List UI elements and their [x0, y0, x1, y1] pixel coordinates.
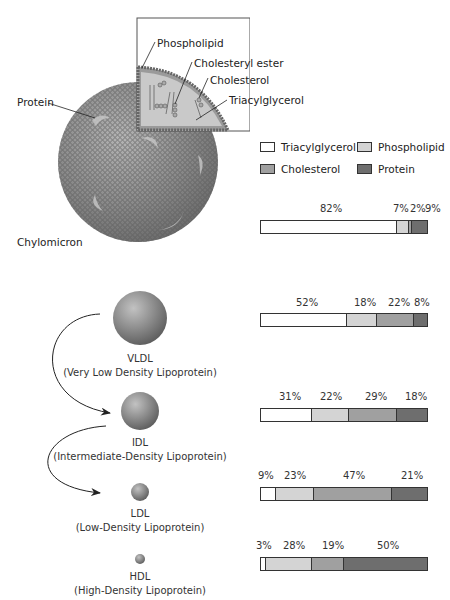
- swatch-triacylglycerol: [260, 142, 275, 152]
- pct-label: 22%: [320, 391, 342, 402]
- pct-label: 2%: [410, 203, 426, 214]
- pct-label: 31%: [279, 391, 301, 402]
- label-protein: Protein: [17, 96, 54, 108]
- pct-label: 82%: [320, 203, 342, 214]
- pct-label: 29%: [365, 391, 387, 402]
- hdl-abbr: HDL: [40, 570, 240, 584]
- pct-label: 9%: [425, 203, 441, 214]
- vldl-sphere: [113, 291, 167, 345]
- idl-sphere: [121, 392, 159, 430]
- pct-label: 47%: [343, 470, 365, 481]
- seg-protein: [344, 558, 427, 570]
- chylomicron-caption: Chylomicron: [17, 236, 83, 248]
- lipoprotein-spheres: [0, 270, 250, 600]
- seg-triacylglycerol: [261, 409, 312, 421]
- caption-hdl: HDL (High-Density Lipoprotein): [40, 570, 240, 598]
- label-cholesterol: Cholesterol: [210, 74, 269, 86]
- ldl-full: (Low-Density Lipoprotein): [40, 521, 240, 535]
- vldl-abbr: VLDL: [40, 352, 240, 366]
- label-cholesteryl-ester: Cholesteryl ester: [194, 57, 283, 69]
- seg-triacylglycerol: [261, 221, 397, 233]
- caption-ldl: LDL (Low-Density Lipoprotein): [40, 507, 240, 535]
- pct-label: 22%: [388, 297, 410, 308]
- ldl-sphere: [131, 483, 149, 501]
- seg-triacylglycerol: [261, 314, 347, 326]
- pct-label: 18%: [405, 391, 427, 402]
- legend-label: Triacylglycerol: [281, 141, 356, 153]
- pct-label: 19%: [322, 540, 344, 551]
- label-phospholipid: Phospholipid: [157, 37, 224, 49]
- seg-phospholipid: [276, 488, 314, 500]
- seg-cholesterol: [312, 558, 344, 570]
- legend-item-protein: Protein: [357, 163, 415, 175]
- swatch-phospholipid: [357, 142, 372, 152]
- hdl-full: (High-Density Lipoprotein): [40, 584, 240, 598]
- legend-item-cholesterol: Cholesterol: [260, 163, 340, 175]
- seg-phospholipid: [312, 409, 349, 421]
- seg-triacylglycerol: [261, 488, 276, 500]
- swatch-cholesterol: [260, 164, 275, 174]
- seg-phospholipid: [397, 221, 409, 233]
- bar-hdl: [260, 557, 428, 571]
- bar-chylomicron: [260, 220, 428, 234]
- label-triacylglycerol: Triacylglycerol: [229, 94, 304, 106]
- pct-label: 8%: [414, 297, 430, 308]
- legend-label: Cholesterol: [281, 163, 340, 175]
- seg-cholesterol: [377, 314, 414, 326]
- seg-protein: [392, 488, 427, 500]
- idl-full: (Intermediate-Density Lipoprotein): [40, 450, 240, 464]
- caption-idl: IDL (Intermediate-Density Lipoprotein): [40, 436, 240, 464]
- legend-item-triacylglycerol: Triacylglycerol: [260, 141, 356, 153]
- pct-label: 28%: [283, 540, 305, 551]
- idl-abbr: IDL: [40, 436, 240, 450]
- caption-vldl: VLDL (Very Low Density Lipoprotein): [40, 352, 240, 380]
- seg-protein: [412, 221, 427, 233]
- pct-label: 50%: [377, 540, 399, 551]
- legend-label: Protein: [378, 163, 415, 175]
- swatch-protein: [357, 164, 372, 174]
- pct-label: 23%: [284, 470, 306, 481]
- bar-idl: [260, 408, 428, 422]
- ldl-abbr: LDL: [40, 507, 240, 521]
- seg-protein: [414, 314, 427, 326]
- hdl-sphere: [135, 554, 145, 564]
- seg-protein: [397, 409, 427, 421]
- pct-label: 3%: [256, 540, 272, 551]
- pct-label: 7%: [393, 203, 409, 214]
- legend-label: Phospholipid: [378, 141, 445, 153]
- pct-label: 9%: [258, 470, 274, 481]
- pct-label: 52%: [296, 297, 318, 308]
- bar-ldl: [260, 487, 428, 501]
- vldl-full: (Very Low Density Lipoprotein): [40, 366, 240, 380]
- legend-item-phospholipid: Phospholipid: [357, 141, 445, 153]
- bar-vldl: [260, 313, 428, 327]
- seg-phospholipid: [266, 558, 312, 570]
- pct-label: 21%: [401, 470, 423, 481]
- seg-cholesterol: [349, 409, 397, 421]
- seg-phospholipid: [347, 314, 377, 326]
- pct-label: 18%: [354, 297, 376, 308]
- seg-cholesterol: [314, 488, 392, 500]
